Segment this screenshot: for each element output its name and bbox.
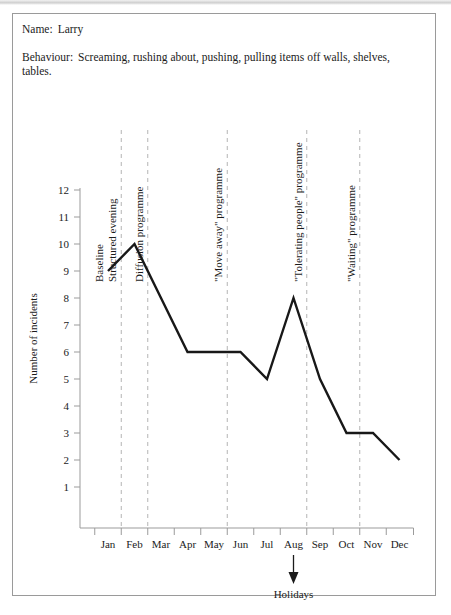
behaviour-value: Screaming, rushing about, pushing, pulli… (22, 51, 390, 77)
name-row: Name:Larry (22, 22, 414, 36)
behaviour-row: Behaviour:Screaming, rushing about, push… (22, 50, 414, 78)
chart-page-frame (12, 13, 436, 596)
name-value: Larry (58, 23, 84, 35)
window-top-edge (0, 0, 451, 5)
behaviour-label: Behaviour: (22, 51, 73, 63)
name-label: Name: (22, 23, 53, 35)
record-header: Name:Larry Behaviour:Screaming, rushing … (22, 22, 414, 78)
